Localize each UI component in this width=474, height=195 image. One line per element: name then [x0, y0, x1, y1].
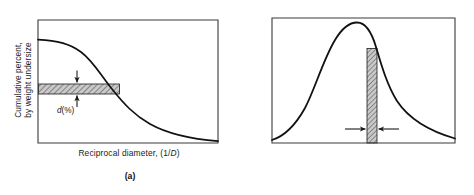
panel-b: Percent by weight per micron Log diamete…: [237, 0, 474, 195]
panel-a-y-axis-label-line2: by weight undersize: [23, 17, 33, 143]
panel-a-plot: [0, 0, 237, 195]
panel-a-y-axis-label-line1: Cumulative percent,: [13, 17, 23, 143]
plot-frame-a: [38, 20, 218, 143]
plot-frame-b: [272, 18, 455, 143]
panel-a: Cumulative percent, by weight undersize …: [0, 0, 237, 195]
panel-a-y-axis-label: Cumulative percent, by weight undersize: [13, 17, 33, 143]
frequency-curve-b: [272, 23, 455, 141]
panel-a-band-annotation-rest: (%): [62, 106, 75, 115]
hatched-band-a: [39, 84, 120, 94]
panel-a-caption: (a): [110, 171, 150, 181]
figure-container: Cumulative percent, by weight undersize …: [0, 0, 474, 195]
panel-a-x-axis-label-prefix: Reciprocal diameter, (1/: [78, 148, 170, 158]
panel-a-band-annotation: d(%): [57, 106, 74, 116]
panel-a-x-axis-label: Reciprocal diameter, (1/D): [38, 148, 220, 158]
panel-b-plot: [237, 0, 474, 195]
panel-a-x-axis-label-suffix: ): [177, 148, 180, 158]
hatched-strip-b: [367, 49, 377, 144]
